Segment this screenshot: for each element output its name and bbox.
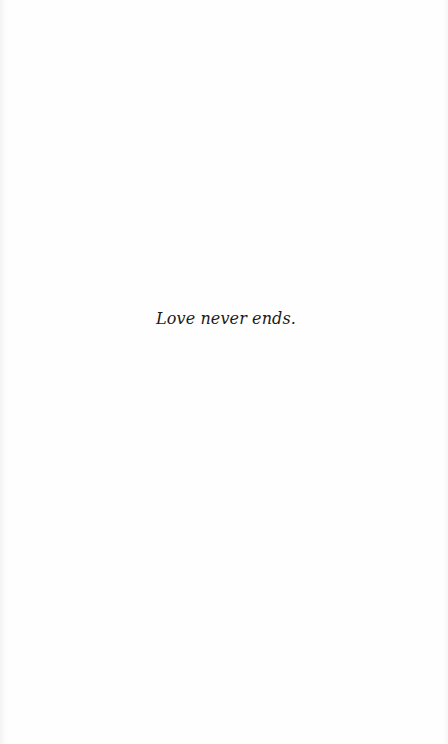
- epigraph-text: Love never ends.: [0, 308, 448, 330]
- book-page: Love never ends.: [0, 0, 448, 744]
- page-edge-left: [0, 0, 8, 744]
- page-edge-right: [443, 0, 448, 744]
